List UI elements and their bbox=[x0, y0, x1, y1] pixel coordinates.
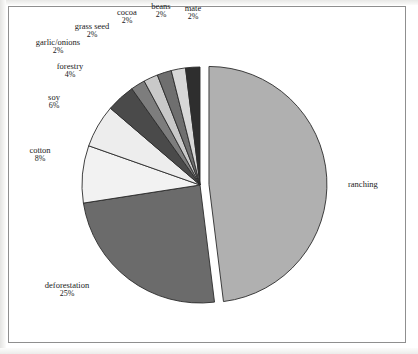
slice-label-forestry-percent: 4% bbox=[45, 71, 95, 80]
slice-label-mate-percent: 2% bbox=[176, 13, 210, 22]
slice-label-garlic-onions-percent: 2% bbox=[20, 47, 96, 56]
slice-label-cotton: cotton 8% bbox=[17, 146, 63, 164]
slice-label-ranching-name: ranching bbox=[348, 180, 408, 189]
pie-slice-ranching[interactable] bbox=[209, 66, 327, 301]
pie-plot-area: mate 2% beans 2% cocoa 2% grass seed 2% … bbox=[0, 0, 418, 354]
pie-chart-figure: mate 2% beans 2% cocoa 2% grass seed 2% … bbox=[0, 0, 418, 354]
slice-label-garlic-onions: garlic/onions 2% bbox=[20, 38, 96, 56]
slice-label-ranching: ranching bbox=[348, 180, 408, 189]
slice-label-cotton-percent: 8% bbox=[17, 155, 63, 164]
slice-label-beans-percent: 2% bbox=[142, 11, 180, 20]
slice-label-mate: mate 2% bbox=[176, 4, 210, 22]
pie-slices-group bbox=[82, 66, 327, 303]
slice-label-soy: soy 6% bbox=[36, 93, 72, 111]
slice-label-deforestation-percent: 25% bbox=[26, 290, 108, 299]
slice-label-forestry: forestry 4% bbox=[45, 62, 95, 80]
slice-label-beans: beans 2% bbox=[142, 2, 180, 20]
slice-label-soy-percent: 6% bbox=[36, 102, 72, 111]
slice-label-deforestation: deforestation 25% bbox=[26, 281, 108, 299]
